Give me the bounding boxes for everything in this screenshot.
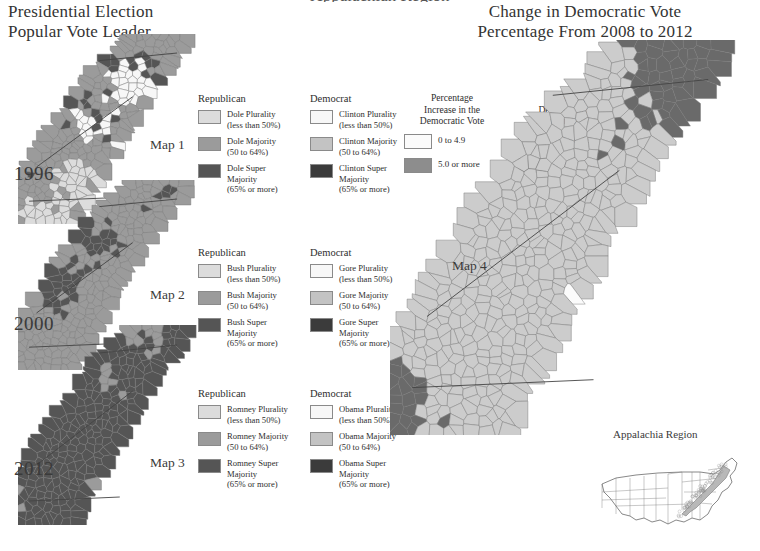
legend-line2: (50 to 64%) — [339, 442, 380, 452]
legend-line2: (50 to 64%) — [339, 147, 380, 157]
legend-line1: Dole Majority — [227, 136, 276, 146]
legend-swatch — [310, 318, 333, 332]
legend-swatch — [198, 110, 221, 124]
legend-item-text: Bush Plurality (less than 50%) — [227, 263, 280, 284]
legend-header-republican: Republican — [198, 388, 286, 399]
legend-header-democrat: Democrat — [310, 247, 400, 258]
legend-line1: Romney Super — [227, 458, 278, 468]
legend-line2: (50 to 64%) — [227, 301, 268, 311]
legend-item[interactable]: Obama Super Majority (65% or more) — [310, 458, 400, 490]
map-3-choropleth[interactable] — [18, 325, 203, 525]
legend-line3: (65% or more) — [227, 184, 278, 194]
legend-swatch — [310, 432, 333, 446]
legend-item-text: Gore Majority (50 to 64%) — [339, 290, 388, 311]
legend-swatch — [198, 164, 221, 178]
legend-swatch — [198, 137, 221, 151]
left-title-line1: Presidential Election — [8, 2, 238, 22]
legend-item-text: Dole Super Majority (65% or more) — [227, 163, 278, 195]
map-2-legend-democrat: Democrat Gore Plurality (less than 50%) … — [310, 247, 400, 355]
legend-item[interactable]: Bush Super Majority (65% or more) — [198, 317, 286, 349]
legend-item-text: Bush Super Majority (65% or more) — [227, 317, 278, 349]
legend-item[interactable]: Romney Super Majority (65% or more) — [198, 458, 286, 490]
legend-line3: (65% or more) — [227, 479, 278, 489]
legend-line1: Gore Plurality — [339, 263, 388, 273]
map-1-legend-democrat: Democrat Clinton Plurality (less than 50… — [310, 93, 400, 201]
inset-title: Appalachia Region — [613, 428, 698, 440]
us-inset-map — [596, 448, 756, 548]
legend-line1: Gore Super — [339, 317, 378, 327]
map-1-label: Map 1 — [150, 137, 185, 153]
legend-line2: (less than 50%) — [339, 415, 392, 425]
legend-line1: Obama Plurality — [339, 404, 396, 414]
legend-item[interactable]: Gore Majority (50 to 64%) — [310, 290, 400, 311]
legend-item[interactable]: Clinton Majority (50 to 64%) — [310, 136, 400, 157]
legend-line1: Gore Majority — [339, 290, 388, 300]
legend-header-democrat: Democrat — [310, 388, 400, 399]
legend-swatch — [310, 405, 333, 419]
legend-line2: (less than 50%) — [339, 120, 392, 130]
legend-item-text: Bush Majority (50 to 64%) — [227, 290, 277, 311]
legend-line2: (50 to 64%) — [227, 442, 268, 452]
map-3-figure — [18, 325, 203, 525]
legend-item[interactable]: Romney Majority (50 to 64%) — [198, 431, 286, 452]
legend-item[interactable]: Clinton Plurality (less than 50%) — [310, 109, 400, 130]
legend-item-text: Romney Majority (50 to 64%) — [227, 431, 288, 452]
legend-item-text: Obama Super Majority (65% or more) — [339, 458, 390, 490]
legend-item-text: Clinton Majority (50 to 64%) — [339, 136, 397, 157]
map-4-figure — [390, 40, 760, 435]
legend-line2: Majority — [227, 328, 257, 338]
legend-line2: Majority — [339, 469, 369, 479]
right-title-line1: Change in Democratic Vote — [420, 2, 750, 22]
legend-item-text: Dole Majority (50 to 64%) — [227, 136, 276, 157]
legend-item[interactable]: Obama Plurality (less than 50%) — [310, 404, 400, 425]
legend-item[interactable]: Obama Majority (50 to 64%) — [310, 431, 400, 452]
legend-line3: (65% or more) — [339, 184, 390, 194]
legend-header-democrat: Democrat — [310, 93, 400, 104]
legend-line2: (less than 50%) — [227, 274, 280, 284]
map-3-year-label: 2012 — [14, 458, 54, 480]
legend-item-text: Obama Plurality (less than 50%) — [339, 404, 396, 425]
legend-item-text: Clinton Plurality (less than 50%) — [339, 109, 397, 130]
map-2-legend: Republican Bush Plurality (less than 50%… — [198, 247, 400, 355]
legend-item-text: Romney Super Majority (65% or more) — [227, 458, 278, 490]
us-inset-choropleth[interactable] — [596, 448, 756, 548]
legend-item[interactable]: Dole Majority (50 to 64%) — [198, 136, 286, 157]
legend-line1: Romney Plurality — [227, 404, 288, 414]
map-3-legend-democrat: Democrat Obama Plurality (less than 50%)… — [310, 388, 400, 496]
legend-item[interactable]: Gore Super Majority (65% or more) — [310, 317, 400, 349]
legend-line1: Romney Majority — [227, 431, 288, 441]
legend-line2: (50 to 64%) — [227, 147, 268, 157]
legend-line3: (65% or more) — [339, 479, 390, 489]
legend-item-text: Dole Plurality (less than 50%) — [227, 109, 280, 130]
legend-item-text: Obama Majority (50 to 64%) — [339, 431, 396, 452]
legend-item-text: Gore Plurality (less than 50%) — [339, 263, 392, 284]
map-1-legend-republican: Republican Dole Plurality (less than 50%… — [198, 93, 286, 201]
legend-item-text: Gore Super Majority (65% or more) — [339, 317, 390, 349]
legend-item[interactable]: Romney Plurality (less than 50%) — [198, 404, 286, 425]
legend-item[interactable]: Bush Plurality (less than 50%) — [198, 263, 286, 284]
map-2-legend-republican: Republican Bush Plurality (less than 50%… — [198, 247, 286, 355]
legend-line1: Bush Majority — [227, 290, 277, 300]
legend-line1: Bush Super — [227, 317, 267, 327]
legend-item[interactable]: Clinton Super Majority (65% or more) — [310, 163, 400, 195]
legend-swatch — [198, 405, 221, 419]
legend-line1: Dole Super — [227, 163, 266, 173]
legend-line1: Clinton Majority — [339, 136, 397, 146]
legend-swatch — [310, 110, 333, 124]
legend-item[interactable]: Dole Super Majority (65% or more) — [198, 163, 286, 195]
legend-item[interactable]: Bush Majority (50 to 64%) — [198, 290, 286, 311]
map-3-label: Map 3 — [150, 455, 185, 471]
map-1-legend: Republican Dole Plurality (less than 50%… — [198, 93, 400, 201]
legend-line2: Majority — [339, 328, 369, 338]
legend-line2: (less than 50%) — [227, 415, 280, 425]
map-3-legend: Republican Romney Plurality (less than 5… — [198, 388, 400, 496]
right-panel-title: Change in Democratic Vote Percentage Fro… — [420, 2, 750, 42]
legend-item[interactable]: Dole Plurality (less than 50%) — [198, 109, 286, 130]
legend-item[interactable]: Gore Plurality (less than 50%) — [310, 263, 400, 284]
legend-header-republican: Republican — [198, 93, 286, 104]
map-4-choropleth[interactable] — [390, 40, 760, 435]
legend-line2: Majority — [227, 469, 257, 479]
legend-swatch — [310, 291, 333, 305]
legend-swatch — [198, 459, 221, 473]
map-3-legend-republican: Republican Romney Plurality (less than 5… — [198, 388, 286, 496]
